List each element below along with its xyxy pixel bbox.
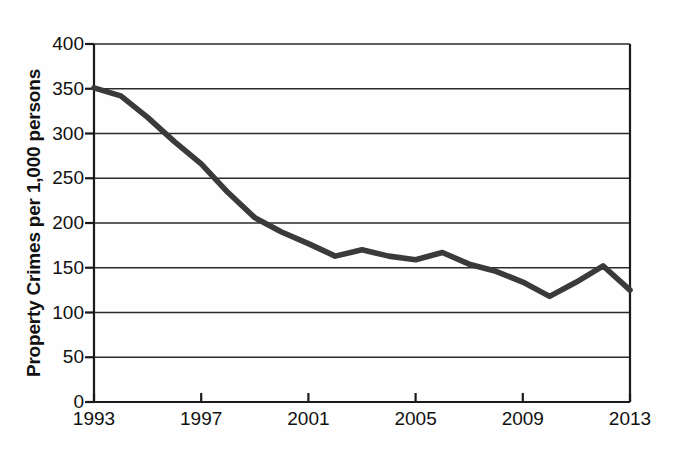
plot-area bbox=[0, 0, 673, 462]
property-crimes-line-chart: Property Crimes per 1,000 persons 050100… bbox=[0, 0, 673, 462]
gridline-group bbox=[94, 44, 630, 357]
data-series-line bbox=[94, 88, 630, 297]
